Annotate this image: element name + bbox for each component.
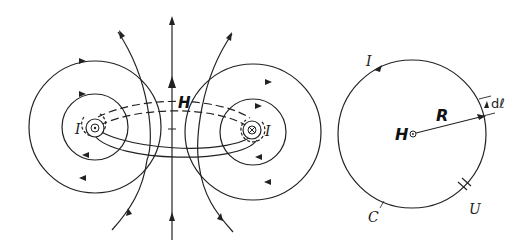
- current-loop-figure: H I I: [29, 16, 321, 240]
- current-label-left: I: [74, 121, 81, 137]
- line-element-label: dℓ: [491, 96, 505, 111]
- radius-label-r: R: [436, 106, 448, 125]
- current-label-right: I: [264, 123, 271, 139]
- axial-field-lines: [112, 16, 233, 240]
- curve-c: [338, 60, 486, 208]
- diagram-canvas: H I I I R H dℓ U C: [0, 0, 523, 251]
- field-label-h: H: [395, 125, 409, 144]
- current-direction-arrow: [374, 65, 382, 72]
- wire-loop: [86, 119, 261, 157]
- voltage-label-u: U: [469, 201, 482, 217]
- curve-label-c: C: [368, 209, 379, 225]
- field-label-h: H: [178, 94, 191, 112]
- current-label-i: I: [365, 53, 372, 69]
- circular-loop-figure: I R H dℓ U C: [338, 53, 505, 225]
- dl-arrow: [484, 101, 489, 108]
